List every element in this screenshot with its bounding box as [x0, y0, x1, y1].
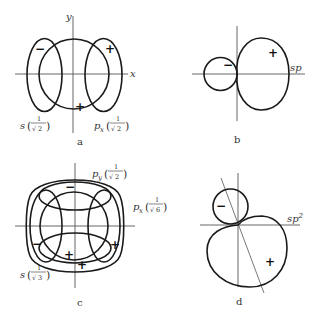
svg-text:): )	[163, 201, 167, 214]
sp2-major-lobe	[207, 216, 287, 287]
svg-text:√: √	[32, 274, 37, 282]
sign-minus: −	[223, 58, 233, 72]
svg-text:s: s	[20, 269, 25, 280]
svg-text:6: 6	[156, 206, 160, 214]
sp2-hybrid-label: sp2	[287, 212, 304, 224]
svg-text:√: √	[111, 125, 116, 133]
s-coefficient-label: s ( 1 √ 2 )	[20, 115, 50, 133]
panel-caption-a: a	[77, 136, 83, 147]
svg-text:1: 1	[37, 264, 41, 272]
s-coefficient-label: s ( 1 √ 3 )	[20, 264, 50, 282]
sp-hybrid-label: sp	[290, 62, 302, 73]
svg-text:): )	[123, 168, 127, 181]
svg-text:2: 2	[117, 125, 121, 133]
svg-text:): )	[46, 269, 50, 282]
px-positive-lobe-ellipse	[85, 39, 122, 112]
panel-caption-c: c	[77, 297, 83, 308]
svg-text:√: √	[150, 206, 155, 214]
sign-plus: +	[64, 248, 74, 262]
svg-text:x: x	[100, 126, 104, 134]
sign-minus: −	[65, 180, 75, 194]
px-coefficient-label: p x ( 1 √ 6 )	[133, 196, 167, 215]
svg-text:1: 1	[37, 115, 41, 123]
panel-caption-d: d	[236, 296, 243, 307]
svg-text:√: √	[109, 173, 114, 181]
svg-text:1: 1	[116, 115, 120, 123]
panel-d: − + sp2 d	[200, 173, 304, 307]
sign-plus: +	[268, 46, 278, 60]
panel-a: x y − + + s ( 1 √ 2 ) p x ( 1 √ 2 ) a	[15, 11, 136, 147]
svg-text:y: y	[97, 174, 103, 182]
sign-minus: −	[35, 42, 45, 56]
svg-text:1: 1	[114, 163, 118, 171]
orbital-hybridization-figure: x y − + + s ( 1 √ 2 ) p x ( 1 √ 2 ) a	[0, 0, 318, 316]
sign-plus: +	[265, 255, 275, 269]
svg-text:2: 2	[38, 125, 42, 133]
svg-text:): )	[46, 120, 50, 133]
svg-text:1: 1	[155, 196, 159, 204]
sign-plus: +	[75, 100, 85, 114]
x-axis-label: x	[130, 68, 136, 79]
svg-text:): )	[125, 120, 129, 133]
px-coefficient-label: p x ( 1 √ 2 )	[94, 115, 129, 134]
sign-plus: +	[77, 258, 87, 272]
svg-text:(: (	[145, 201, 149, 214]
py-coefficient-label: p y ( 1 √ 2 )	[92, 163, 127, 182]
svg-text:(: (	[104, 168, 108, 181]
sign-minus: −	[216, 199, 226, 213]
sign-plus: +	[110, 238, 120, 252]
svg-text:(: (	[27, 269, 31, 282]
svg-text:2: 2	[115, 173, 119, 181]
panel-caption-b: b	[234, 134, 240, 145]
svg-text:√: √	[32, 125, 37, 133]
svg-text:(: (	[27, 120, 31, 133]
svg-text:x: x	[139, 207, 143, 215]
panel-c: − − + + + p y ( 1 √ 2 ) p x ( 1 √ 6 )	[15, 163, 167, 308]
hybrid-direction-line	[221, 178, 264, 293]
svg-text:(: (	[106, 120, 110, 133]
svg-text:s: s	[20, 120, 25, 131]
svg-text:3: 3	[38, 274, 42, 282]
y-axis-label: y	[65, 11, 72, 22]
panel-b: − + sp b	[192, 26, 305, 145]
sign-minus: −	[32, 237, 42, 251]
sign-plus: +	[105, 42, 115, 56]
